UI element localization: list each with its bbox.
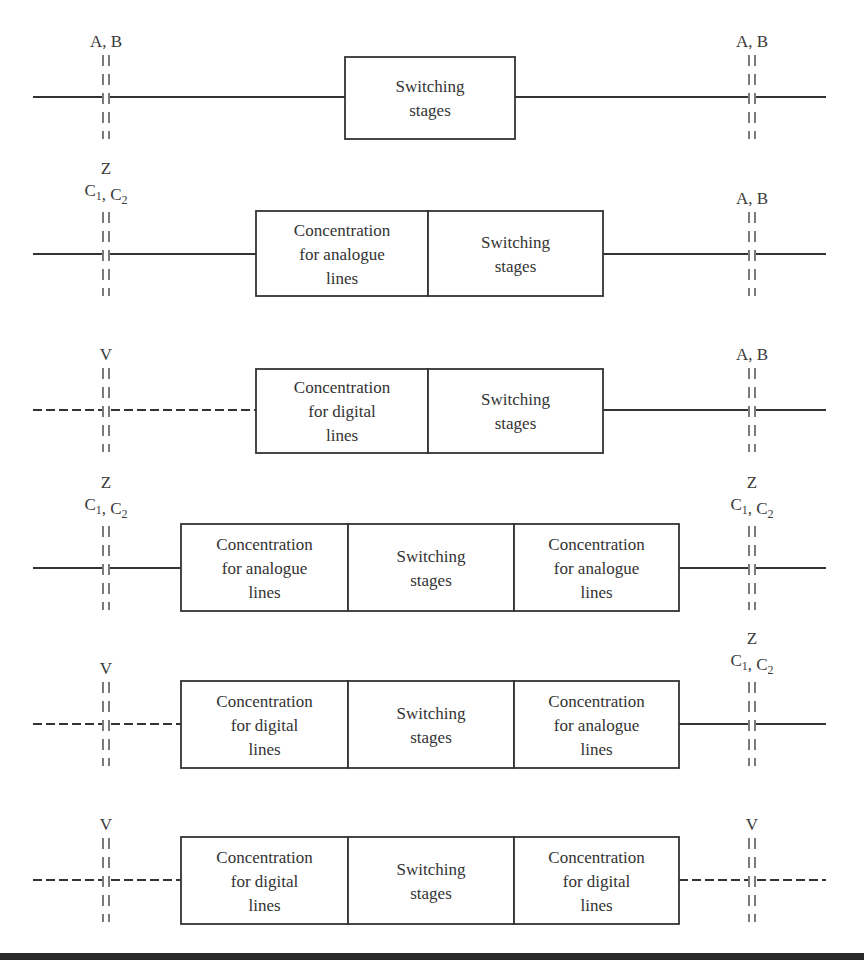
reference-point-label: Z <box>747 473 757 492</box>
block-label: lines <box>580 896 612 915</box>
block-label: Switching <box>397 704 466 723</box>
block-label: stages <box>410 728 452 747</box>
configuration-row: VA, BConcentrationfor digitallinesSwitch… <box>33 345 826 453</box>
block-label: Concentration <box>548 535 645 554</box>
block-label: for digital <box>563 872 631 891</box>
block-label: Concentration <box>294 378 391 397</box>
block-label: for digital <box>231 872 299 891</box>
reference-point-label: C1, C2 <box>730 495 773 521</box>
function-block: Switchingstages <box>428 369 603 453</box>
block-label: stages <box>410 884 452 903</box>
block-label: Switching <box>397 860 466 879</box>
reference-point-label: V <box>746 815 759 834</box>
configuration-row: VVConcentrationfor digitallinesSwitching… <box>33 815 826 924</box>
function-block: Switchingstages <box>348 681 514 768</box>
block-label: lines <box>580 583 612 602</box>
block-label: lines <box>326 269 358 288</box>
function-block: Concentrationfor analoguelines <box>181 524 348 611</box>
block-label: Switching <box>481 233 550 252</box>
block-label: for analogue <box>554 716 639 735</box>
function-block: Concentrationfor digitallines <box>181 837 348 924</box>
block-label: for digital <box>308 402 376 421</box>
reference-point-label: Z <box>747 629 757 648</box>
block-label: lines <box>248 583 280 602</box>
function-block: Switchingstages <box>348 524 514 611</box>
configuration-row: VZC1, C2Concentrationfor digitallinesSwi… <box>33 629 826 768</box>
block-label: Switching <box>396 77 465 96</box>
block-label: stages <box>495 414 537 433</box>
block-label: lines <box>580 740 612 759</box>
function-block: Switchingstages <box>428 211 603 296</box>
switching-diagram: A, BA, BSwitchingstagesZC1, C2A, BConcen… <box>0 0 864 975</box>
block-label: Concentration <box>294 221 391 240</box>
block-label: stages <box>495 257 537 276</box>
function-block: Concentrationfor digitallines <box>256 369 428 453</box>
reference-point-label: C1, C2 <box>84 495 127 521</box>
function-block: Switchingstages <box>345 57 515 139</box>
configuration-row: ZC1, C2A, BConcentrationfor analogueline… <box>33 159 826 296</box>
reference-point-label: V <box>100 815 113 834</box>
bottom-rule <box>0 953 864 960</box>
configuration-row: ZC1, C2ZC1, C2Concentrationfor analoguel… <box>33 473 826 611</box>
reference-point-label: A, B <box>736 32 768 51</box>
function-block: Concentrationfor digitallines <box>514 837 679 924</box>
block-label: for digital <box>231 716 299 735</box>
block-label: Concentration <box>548 692 645 711</box>
reference-point-label: A, B <box>90 32 122 51</box>
block-label: lines <box>326 426 358 445</box>
function-block: Switchingstages <box>348 837 514 924</box>
block-label: for analogue <box>222 559 307 578</box>
block-label: Concentration <box>216 848 313 867</box>
block-label: Concentration <box>216 692 313 711</box>
block-label: for analogue <box>554 559 639 578</box>
block-label: lines <box>248 896 280 915</box>
block-label: Switching <box>397 547 466 566</box>
block-label: Concentration <box>216 535 313 554</box>
function-block: Concentrationfor analoguelines <box>514 681 679 768</box>
function-block: Concentrationfor analoguelines <box>514 524 679 611</box>
reference-point-label: C1, C2 <box>84 181 127 207</box>
block-label: Concentration <box>548 848 645 867</box>
block-label: stages <box>410 571 452 590</box>
configuration-row: A, BA, BSwitchingstages <box>33 32 826 139</box>
reference-point-label: V <box>100 659 113 678</box>
block-label: stages <box>409 101 451 120</box>
reference-point-label: A, B <box>736 345 768 364</box>
block-label: Switching <box>481 390 550 409</box>
reference-point-label: V <box>100 345 113 364</box>
reference-point-label: Z <box>101 473 111 492</box>
reference-point-label: C1, C2 <box>730 651 773 677</box>
function-block: Concentrationfor analoguelines <box>256 211 428 296</box>
reference-point-label: Z <box>101 159 111 178</box>
block-label: lines <box>248 740 280 759</box>
reference-point-label: A, B <box>736 189 768 208</box>
block-label: for analogue <box>299 245 384 264</box>
function-block: Concentrationfor digitallines <box>181 681 348 768</box>
